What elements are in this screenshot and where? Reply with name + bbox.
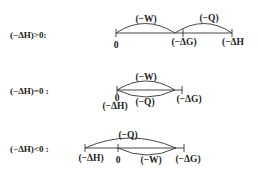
row-positive-dH: (−ΔH)>0: (−W) (−Q) 0 (−ΔG) (−ΔH: [10, 13, 245, 50]
label-neg-dG: (−ΔG): [175, 154, 200, 165]
label-neg-Q: (−Q): [135, 97, 154, 108]
label-neg-dG: (−ΔG): [176, 94, 201, 105]
label-neg-Q: (−Q): [199, 13, 218, 24]
row-zero-dH: (−ΔH)=0 : (−W) (−Q) 0 (−ΔH) (−ΔG): [10, 72, 202, 112]
arc-neg-W: [117, 81, 175, 90]
label-neg-dH: (−ΔH): [102, 101, 127, 112]
label-neg-W: (−W): [135, 72, 156, 83]
arc-neg-Q: [175, 24, 232, 34]
label-neg-W: (−W): [140, 155, 161, 166]
condition-label: (−ΔH)>0:: [10, 30, 46, 40]
condition-label: (−ΔH)=0 :: [10, 86, 49, 96]
condition-label: (−ΔH)<0 :: [10, 144, 49, 154]
label-neg-Q: (−Q): [118, 130, 137, 141]
row-negative-dH: (−ΔH)<0 : (−Q) (−ΔH) 0 (−W) (−ΔG): [10, 130, 201, 166]
label-neg-dH: (−ΔH): [78, 153, 103, 164]
label-neg-dH: (−ΔH: [222, 37, 245, 48]
label-neg-dG: (−ΔG): [171, 37, 196, 48]
arc-neg-W: [118, 148, 176, 155]
arc-neg-Q: [117, 90, 175, 97]
arc-neg-W: [116, 24, 175, 34]
label-zero: 0: [114, 40, 119, 50]
energy-relation-diagram: (−ΔH)>0: (−W) (−Q) 0 (−ΔG) (−ΔH (−ΔH)=0 …: [0, 0, 258, 176]
label-neg-W: (−W): [135, 14, 156, 25]
label-zero: 0: [116, 155, 121, 165]
